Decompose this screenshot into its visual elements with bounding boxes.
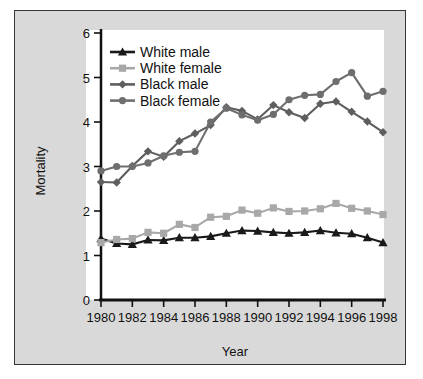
data-point-marker bbox=[364, 93, 371, 100]
x-tick-label: 1992 bbox=[275, 310, 304, 325]
y-tick-label: 0 bbox=[83, 293, 90, 308]
legend-label: White female bbox=[140, 60, 222, 76]
data-point-marker bbox=[285, 208, 292, 215]
figure-frame: 0123456 19801982198419861988199019921994… bbox=[14, 10, 406, 365]
y-tick-label: 2 bbox=[83, 204, 90, 219]
data-point-marker bbox=[191, 148, 198, 155]
y-axis-title: Mortality bbox=[33, 146, 48, 196]
data-point-marker bbox=[97, 239, 104, 246]
data-point-marker bbox=[119, 97, 126, 104]
data-point-marker bbox=[160, 230, 167, 237]
data-point-marker bbox=[113, 163, 120, 170]
y-tick-label: 6 bbox=[83, 26, 90, 41]
x-tick-label: 1984 bbox=[149, 310, 178, 325]
data-point-marker bbox=[144, 229, 151, 236]
y-tick-label: 5 bbox=[83, 71, 90, 86]
x-tick-label: 1982 bbox=[118, 310, 147, 325]
y-tick-label: 4 bbox=[83, 115, 90, 130]
data-point-marker bbox=[160, 152, 167, 159]
x-tick-label: 1986 bbox=[181, 310, 210, 325]
data-point-marker bbox=[348, 205, 355, 212]
chart-canvas: 0123456 19801982198419861988199019921994… bbox=[15, 11, 407, 366]
x-tick-label: 1998 bbox=[369, 310, 398, 325]
data-point-marker bbox=[207, 118, 214, 125]
data-point-marker bbox=[191, 224, 198, 231]
data-point-marker bbox=[113, 236, 120, 243]
data-point-marker bbox=[223, 105, 230, 112]
data-point-marker bbox=[238, 111, 245, 118]
data-point-marker bbox=[332, 78, 339, 85]
data-point-marker bbox=[129, 163, 136, 170]
data-point-marker bbox=[254, 210, 261, 217]
legend-label: Black female bbox=[140, 93, 220, 109]
legend-label: White male bbox=[140, 44, 210, 60]
data-point-marker bbox=[301, 92, 308, 99]
y-tick-label: 3 bbox=[83, 160, 90, 175]
data-point-marker bbox=[317, 91, 324, 98]
data-point-marker bbox=[301, 207, 308, 214]
data-point-marker bbox=[270, 204, 277, 211]
legend-label: Black male bbox=[140, 76, 209, 92]
data-point-marker bbox=[176, 149, 183, 156]
data-point-marker bbox=[332, 200, 339, 207]
data-point-marker bbox=[285, 96, 292, 103]
data-point-marker bbox=[144, 159, 151, 166]
data-point-marker bbox=[223, 213, 230, 220]
x-tick-label: 1988 bbox=[212, 310, 241, 325]
data-point-marker bbox=[379, 211, 386, 218]
data-point-marker bbox=[379, 88, 386, 95]
data-point-marker bbox=[207, 214, 214, 221]
data-point-marker bbox=[317, 205, 324, 212]
line-chart: 0123456 19801982198419861988199019921994… bbox=[15, 11, 407, 366]
data-point-marker bbox=[119, 65, 126, 72]
x-axis-title: Year bbox=[222, 344, 249, 359]
y-tick-label: 1 bbox=[83, 249, 90, 264]
data-point-marker bbox=[348, 69, 355, 76]
x-tick-label: 1996 bbox=[337, 310, 366, 325]
data-point-marker bbox=[97, 167, 104, 174]
x-tick-label: 1980 bbox=[87, 310, 116, 325]
x-axis: 1980198219841986198819901992199419961998 bbox=[87, 300, 398, 325]
data-point-marker bbox=[129, 235, 136, 242]
data-point-marker bbox=[254, 117, 261, 124]
data-point-marker bbox=[238, 207, 245, 214]
data-point-marker bbox=[270, 111, 277, 118]
data-point-marker bbox=[176, 221, 183, 228]
x-tick-label: 1990 bbox=[243, 310, 272, 325]
x-tick-label: 1994 bbox=[306, 310, 335, 325]
data-point-marker bbox=[364, 207, 371, 214]
